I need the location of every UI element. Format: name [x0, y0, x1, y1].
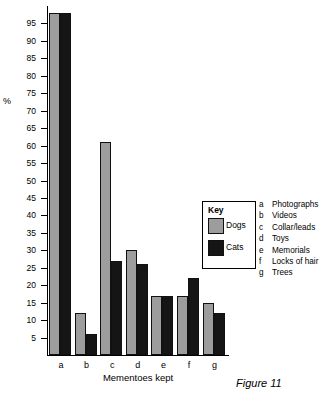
key-swatch-dogs — [208, 218, 224, 234]
bar-g-cats — [214, 313, 225, 355]
y-axis-tick-label: 85 — [10, 54, 36, 62]
bar-group — [177, 6, 201, 355]
legend-key-f: f — [259, 257, 261, 266]
bar-g-dogs — [203, 303, 214, 355]
bar-group — [49, 6, 73, 355]
y-axis-tick-label: 10 — [10, 316, 36, 324]
bar-group — [100, 6, 124, 355]
legend-key-e: e — [259, 246, 264, 255]
bar-c-cats — [111, 261, 122, 355]
legend-row-b: bVideos — [259, 211, 335, 222]
legend-row-a: aPhotographs — [259, 200, 335, 211]
bar-d-cats — [137, 264, 148, 355]
legend-row-f: fLocks of hair — [259, 257, 335, 268]
bar-c-dogs — [100, 142, 111, 355]
y-axis-tick-label: 40 — [10, 211, 36, 219]
key-entry-cats: Cats — [208, 239, 254, 256]
bar-a-dogs — [49, 13, 60, 355]
x-axis-tick-label-b: b — [75, 360, 99, 370]
legend-key-b: b — [259, 211, 264, 220]
y-axis-tick-label: 60 — [10, 142, 36, 150]
y-axis-tick-label: 50 — [10, 177, 36, 185]
legend-desc-b: Videos — [272, 211, 297, 220]
key-box: Key Dogs Cats — [202, 201, 256, 269]
figure-caption: Figure 11 — [236, 377, 331, 389]
legend-desc-e: Memorials — [272, 246, 310, 255]
bar-e-dogs — [151, 296, 162, 355]
y-axis-tick-label: 15 — [10, 299, 36, 307]
y-axis-tick-label: 30 — [10, 246, 36, 254]
y-axis-tick-label: 55 — [10, 159, 36, 167]
bar-e-cats — [162, 296, 173, 355]
x-axis-tick-label-d: d — [126, 360, 150, 370]
legend-row-c: cCollar/leads — [259, 223, 335, 234]
legend-row-e: eMemorials — [259, 246, 335, 257]
x-axis-tick-label-f: f — [177, 360, 201, 370]
y-axis-tick-label: 90 — [10, 37, 36, 45]
bar-group — [126, 6, 150, 355]
key-label-cats: Cats — [226, 242, 243, 252]
bar-b-dogs — [75, 313, 86, 355]
x-axis-line — [47, 355, 229, 356]
legend-desc-c: Collar/leads — [272, 223, 315, 232]
x-axis-tick-label-a: a — [49, 360, 73, 370]
bar-d-dogs — [126, 250, 137, 355]
bar-b-cats — [86, 334, 97, 355]
legend-desc-f: Locks of hair — [272, 257, 318, 266]
legend-row-g: gTrees — [259, 268, 335, 279]
key-entry-dogs: Dogs — [208, 217, 254, 234]
legend-key-c: c — [259, 223, 263, 232]
x-axis-tick-label-e: e — [151, 360, 175, 370]
key-label-dogs: Dogs — [226, 220, 246, 230]
y-axis-tick-label: 80 — [10, 72, 36, 80]
y-axis-tick-label: 25 — [10, 264, 36, 272]
legend-key-g: g — [259, 268, 264, 277]
y-axis-tick-label: 5 — [10, 334, 36, 342]
bar-group — [151, 6, 175, 355]
bar-a-cats — [60, 13, 71, 355]
bar-group — [75, 6, 99, 355]
key-swatch-cats — [208, 240, 224, 256]
y-axis-title: % — [3, 96, 11, 106]
y-axis-tick-label: 65 — [10, 124, 36, 132]
bar-f-cats — [188, 278, 199, 355]
y-axis-tick-label: 45 — [10, 194, 36, 202]
legend-row-d: dToys — [259, 234, 335, 245]
figure-container: % 9590858075706560555045403530252015105 … — [0, 0, 335, 407]
legend-key-d: d — [259, 234, 264, 243]
legend-key-a: a — [259, 200, 264, 209]
y-axis-tick-label: 95 — [10, 19, 36, 27]
legend-desc-d: Toys — [272, 234, 289, 243]
plot-area — [47, 6, 225, 355]
y-axis-tick-label: 70 — [10, 107, 36, 115]
x-axis-tick-label-g: g — [203, 360, 227, 370]
legend-desc-a: Photographs — [272, 200, 318, 209]
y-axis-tick-label: 35 — [10, 229, 36, 237]
bar-f-dogs — [177, 296, 188, 355]
y-axis-tick-label: 20 — [10, 281, 36, 289]
y-axis-tick-label: 75 — [10, 89, 36, 97]
bar-group — [203, 6, 227, 355]
category-legend-list: aPhotographsbVideoscCollar/leadsdToyseMe… — [259, 200, 335, 280]
x-axis-title: Mementoes kept — [47, 372, 229, 383]
key-title: Key — [208, 205, 224, 215]
x-axis-tick-label-c: c — [100, 360, 124, 370]
legend-desc-g: Trees — [272, 268, 293, 277]
